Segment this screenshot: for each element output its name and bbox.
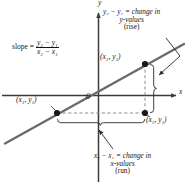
run-annotation-line3: (run) [94, 167, 151, 175]
x-axis-label: x [179, 88, 182, 96]
point-x2-y1-label: (x₂, y₁) [146, 116, 167, 124]
slope-denominator: x₂ − x₁ [36, 47, 59, 56]
slope-formula-lead: slope = [12, 43, 34, 51]
slope-fraction: y₂ − y₁ x₂ − x₁ [36, 39, 59, 56]
rise-brace [151, 65, 157, 113]
run-annotation: x₂ − x₁ = change in x-values (run) [94, 152, 151, 175]
point-x2-y2-marker [142, 61, 148, 67]
slope-numerator: y₂ − y₁ [36, 39, 59, 47]
rise-annotation-line3: (rise) [103, 23, 160, 31]
slope-line [5, 44, 184, 144]
rise-annotation: y₂ − y₁ = change in y-values (rise) [103, 8, 160, 31]
slope-formula: slope = y₂ − y₁ x₂ − x₁ [12, 39, 59, 56]
point-x1-y1-label: (x₁, y₁) [16, 96, 37, 104]
run-brace [58, 120, 145, 126]
slope-diagram: y x 0 slope = y₂ − y₁ x₂ − x₁ y₂ − y₁ = … [0, 0, 189, 184]
y-axis-label: y [98, 0, 101, 7]
origin-label: 0 [86, 92, 90, 101]
rise-leader-arrow [159, 56, 180, 75]
point1-leader [51, 106, 56, 111]
point-x1-y1-marker [54, 110, 60, 116]
run-leader-arrow [99, 130, 113, 149]
point-x2-y2-label: (x₂, y₂) [100, 53, 121, 61]
